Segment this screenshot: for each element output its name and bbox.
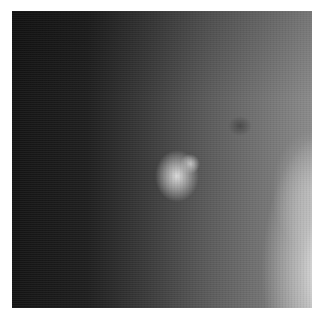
- scan-image: [12, 11, 312, 308]
- shading-overlay: [12, 11, 312, 308]
